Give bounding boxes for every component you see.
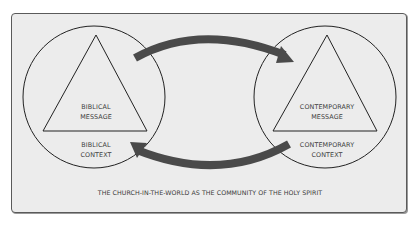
diagram-caption: THE CHURCH-IN-THE-WORLD AS THE COMMUNITY… xyxy=(98,189,323,196)
contemporary-context-line1: CONTEMPORARY xyxy=(300,141,354,151)
biblical-context-line2: CONTEXT xyxy=(80,151,111,161)
contemporary-message-line1: CONTEMPORARY xyxy=(300,103,354,113)
contemporary-message-label: CONTEMPORARY MESSAGE xyxy=(300,103,354,122)
contemporary-context-label: CONTEMPORARY CONTEXT xyxy=(300,141,354,160)
contemporary-context-line2: CONTEXT xyxy=(300,151,354,161)
arrow-left-icon xyxy=(130,142,289,165)
arrow-right-icon xyxy=(135,39,294,63)
biblical-message-label: BIBLICAL MESSAGE xyxy=(80,103,112,122)
biblical-context-label: BIBLICAL CONTEXT xyxy=(80,141,111,160)
biblical-message-line1: BIBLICAL xyxy=(80,103,112,113)
contemporary-message-line2: MESSAGE xyxy=(300,113,354,123)
biblical-message-line2: MESSAGE xyxy=(80,113,112,123)
biblical-context-line1: BIBLICAL xyxy=(80,141,111,151)
